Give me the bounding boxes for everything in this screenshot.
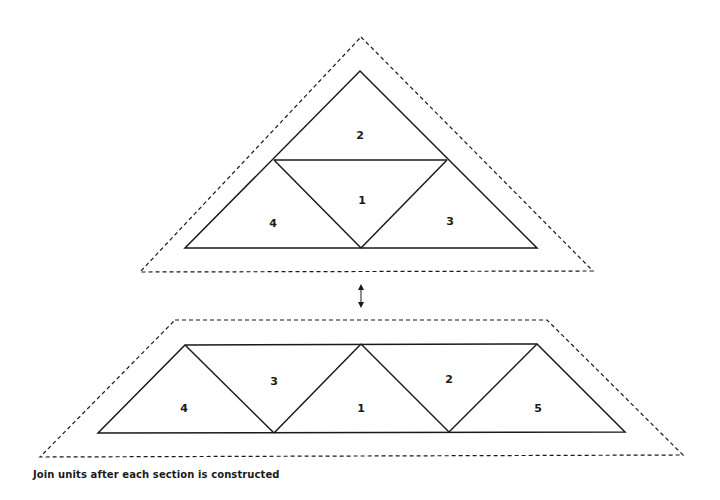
lower-piece-3-label: 3: [270, 375, 278, 388]
upper-unit: 2 1 4 3: [140, 37, 593, 272]
lower-seam-allowance-outline: [40, 320, 683, 457]
lower-piece-2-label: 2: [445, 373, 453, 386]
upper-piece-3-label: 3: [446, 215, 454, 228]
upper-piece-2-label: 2: [356, 129, 364, 142]
lower-piece-4-label: 4: [180, 402, 188, 415]
upper-piece-1-label: 1: [358, 194, 366, 207]
lower-unit: 4 3 1 2 5: [40, 320, 683, 457]
lower-piece-1-label: 1: [357, 402, 365, 415]
instruction-caption: Join units after each section is constru…: [33, 469, 280, 480]
double-arrow-icon: [358, 284, 364, 308]
upper-piece-4-label: 4: [269, 217, 277, 230]
lower-outer-trapezoid: [98, 344, 625, 433]
diagram-canvas: 2 1 4 3 4 3 1 2 5: [0, 0, 720, 500]
lower-piece-5-label: 5: [534, 402, 542, 415]
